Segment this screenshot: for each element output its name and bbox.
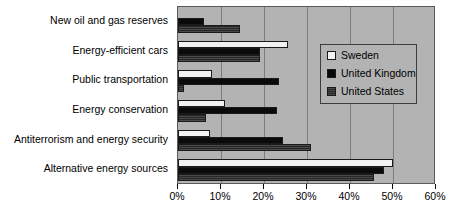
us-swatch-icon	[327, 87, 336, 96]
bar-united-states	[178, 114, 206, 121]
bar-united-kingdom	[178, 18, 204, 25]
x-tick-mark	[220, 184, 221, 189]
x-tick-label: 10%	[209, 190, 230, 202]
x-tick-label: 30%	[295, 190, 316, 202]
category-label: New oil and gas reserves	[0, 15, 168, 26]
bar-united-states	[178, 85, 184, 92]
bar-sweden	[178, 130, 210, 137]
legend-label: Sweden	[341, 50, 379, 61]
x-tick-label: 20%	[252, 190, 273, 202]
x-tick-mark	[435, 184, 436, 189]
uk-swatch-icon	[327, 69, 336, 78]
category-label: Public transportation	[0, 74, 168, 85]
bar-united-kingdom	[178, 78, 279, 85]
gridline	[221, 7, 222, 183]
bar-united-kingdom	[178, 107, 277, 114]
category-label: Energy conservation	[0, 104, 168, 115]
bar-united-states	[178, 144, 311, 151]
bar-united-states	[178, 25, 240, 32]
sweden-swatch-icon	[327, 51, 336, 60]
category-label: Alternative energy sources	[0, 163, 168, 174]
bar-united-states	[178, 174, 374, 181]
x-tick-label: 50%	[381, 190, 402, 202]
bar-sweden	[178, 159, 393, 166]
x-tick-mark	[263, 184, 264, 189]
x-tick-mark	[177, 184, 178, 189]
category-axis: New oil and gas reservesEnergy-efficient…	[0, 6, 174, 184]
legend-item: United States	[327, 86, 411, 97]
bar-united-kingdom	[178, 137, 283, 144]
bar-chart: New oil and gas reservesEnergy-efficient…	[0, 0, 459, 222]
bar-united-kingdom	[178, 167, 384, 174]
bar-sweden	[178, 70, 212, 77]
x-tick-mark	[349, 184, 350, 189]
x-tick-label: 60%	[424, 190, 445, 202]
gridline	[307, 7, 308, 183]
legend-label: United States	[341, 86, 404, 97]
legend-item: Sweden	[327, 50, 411, 61]
category-label: Energy-efficient cars	[0, 45, 168, 56]
x-tick-label: 0%	[169, 190, 184, 202]
category-label: Antiterrorism and energy security	[0, 134, 168, 145]
bar-sweden	[178, 41, 288, 48]
gridline	[264, 7, 265, 183]
x-axis: 0%10%20%30%40%50%60%	[177, 184, 435, 214]
legend-item: United Kingdom	[327, 68, 411, 79]
x-tick-label: 40%	[338, 190, 359, 202]
legend-label: United Kingdom	[341, 68, 416, 79]
x-tick-mark	[392, 184, 393, 189]
x-tick-mark	[306, 184, 307, 189]
chart-legend: SwedenUnited KingdomUnited States	[320, 44, 417, 104]
bar-united-states	[178, 55, 260, 62]
bar-sweden	[178, 100, 225, 107]
bar-united-kingdom	[178, 48, 260, 55]
